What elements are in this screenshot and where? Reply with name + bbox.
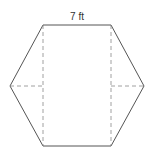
hexagon-outline bbox=[10, 25, 144, 146]
hexagon-diagram: 7 ft bbox=[0, 0, 154, 155]
top-side-length-label: 7 ft bbox=[70, 11, 84, 22]
